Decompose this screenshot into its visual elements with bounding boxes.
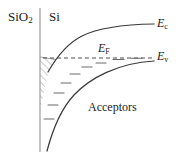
fermi-level-label-subscript: F xyxy=(105,47,109,56)
oxide-region-label: SiO2 xyxy=(8,10,33,23)
oxide-label-text: SiO xyxy=(8,9,28,24)
acceptors-region-label: Acceptors xyxy=(88,101,137,113)
semiconductor-region-label: Si xyxy=(49,10,60,23)
valence-band-label-subscript: v xyxy=(164,55,168,64)
valence-band-label: Ev xyxy=(157,50,168,62)
fermi-level-label: EF xyxy=(98,42,110,54)
oxide-label-subscript: 2 xyxy=(28,15,33,25)
conduction-band-label: Ec xyxy=(157,17,168,29)
conduction-band-label-subscript: c xyxy=(164,22,168,31)
band-diagram-figure: SiO2 Si Ec Ev EF Acceptors xyxy=(0,0,182,158)
inversion-charge-hatched-region xyxy=(40,57,56,110)
